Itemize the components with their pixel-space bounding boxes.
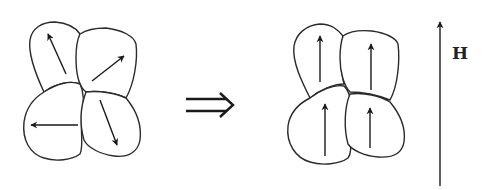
implies-arrow-icon: [186, 93, 233, 117]
field-arrow: H: [440, 22, 468, 186]
field-label: H: [452, 43, 468, 63]
grains-after: [288, 24, 405, 164]
grain-top-right: [76, 28, 137, 98]
grain-bottom-right: [345, 93, 404, 157]
grain-top-right: [340, 31, 399, 100]
grain-top-left: [30, 22, 80, 92]
domain-alignment-diagram: H: [0, 0, 493, 190]
grains-before: [24, 22, 141, 160]
grain-bottom-right: [81, 91, 140, 156]
grain-bottom-left: [24, 82, 84, 160]
grain-bottom-left: [288, 86, 351, 164]
